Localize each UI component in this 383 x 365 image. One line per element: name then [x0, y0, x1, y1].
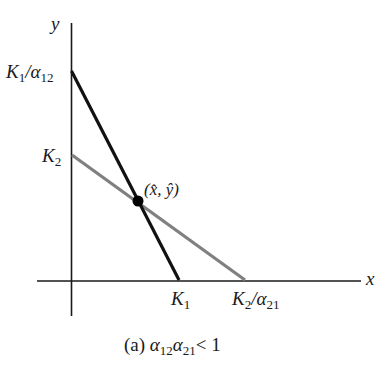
- symbol-alpha: α: [150, 334, 160, 355]
- x-intercept-line-1-label: K1: [171, 289, 190, 308]
- isocline-line-1: [72, 71, 180, 280]
- caption-relation: < 1: [196, 334, 221, 355]
- phase-plane-figure: y x K1/α12 K2 (x̂, ŷ) K1 K2/α21 (a) α12α…: [0, 0, 383, 365]
- symbol-k: K: [42, 145, 55, 166]
- x-axis-label-text: x: [366, 268, 374, 289]
- subscript: 21: [266, 297, 279, 312]
- subscript: 2: [55, 154, 62, 169]
- symbol-k: K: [6, 61, 19, 82]
- subscript: 21: [183, 343, 196, 358]
- symbol-alpha: α: [30, 61, 40, 82]
- subscript: 12: [160, 343, 173, 358]
- subscript: 12: [40, 70, 53, 85]
- x-intercept-line-2-label: K2/α21: [232, 289, 279, 308]
- y-axis-label: y: [51, 14, 59, 33]
- equilibrium-label: (x̂, ŷ): [144, 181, 179, 198]
- caption-prefix: (a): [124, 334, 145, 355]
- symbol-alpha: α: [173, 334, 183, 355]
- x-axis-label: x: [366, 269, 374, 288]
- symbol-alpha: α: [256, 288, 266, 309]
- isocline-line-2: [72, 155, 245, 280]
- equilibrium-point: [133, 196, 144, 207]
- subscript: 1: [19, 70, 26, 85]
- figure-caption: (a) α12α21< 1: [124, 335, 221, 354]
- subscript: 1: [184, 297, 191, 312]
- symbol-k: K: [232, 288, 245, 309]
- y-intercept-line-1-label: K1/α12: [6, 62, 53, 81]
- y-intercept-line-2-label: K2: [42, 146, 61, 165]
- equilibrium-label-text: (x̂, ŷ): [144, 180, 179, 199]
- phase-plane-plot: [0, 0, 383, 365]
- symbol-k: K: [171, 288, 184, 309]
- y-axis-label-text: y: [51, 13, 59, 34]
- subscript: 2: [245, 297, 252, 312]
